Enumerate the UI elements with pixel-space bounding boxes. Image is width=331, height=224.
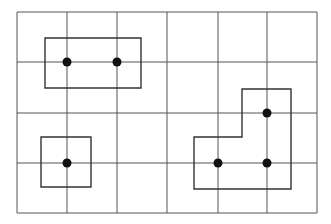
grid-point-0 [63, 58, 72, 67]
grid-point-5 [263, 159, 272, 168]
rectangle-top-left [45, 38, 141, 88]
l-shape-bottom-right [194, 89, 291, 189]
grid-point-2 [63, 159, 72, 168]
grid-diagram [0, 0, 331, 224]
grid-point-1 [113, 58, 122, 67]
grid-point-4 [214, 159, 223, 168]
grid-lines [17, 12, 317, 213]
grid-point-3 [263, 109, 272, 118]
